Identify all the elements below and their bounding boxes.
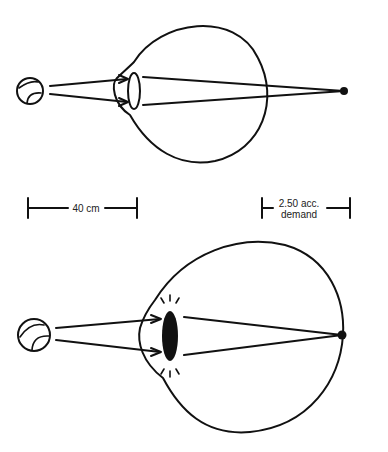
demand-label-line1: 2.50 acc.	[279, 198, 320, 209]
bottom-eye-diagram	[18, 242, 347, 433]
demand-scale-bar: 2.50 acc. demand	[262, 198, 350, 220]
incoming-rays	[56, 315, 161, 356]
demand-label-line2: demand	[281, 209, 317, 220]
relaxed-lens	[128, 73, 140, 109]
accommodated-lens	[162, 311, 178, 361]
refracted-rays	[143, 77, 344, 105]
ball-icon	[18, 319, 50, 351]
ball-icon	[17, 78, 43, 104]
distance-label: 40 cm	[72, 203, 99, 214]
focal-point	[338, 331, 347, 340]
refracted-rays	[184, 317, 342, 355]
accommodation-diagram: 40 cm 2.50 acc. demand	[0, 0, 388, 452]
eye-globe	[114, 26, 267, 162]
distance-scale-bar: 40 cm	[28, 198, 137, 218]
top-eye-diagram	[17, 26, 348, 162]
focal-point	[340, 87, 348, 95]
